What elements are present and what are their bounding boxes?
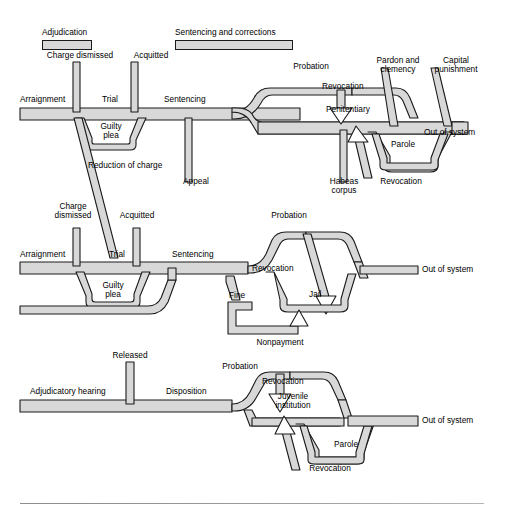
label-juv-disposition: Disposition <box>166 387 207 396</box>
juv-probation-right-leg <box>338 400 352 418</box>
felony-pardon-clemency-pipe <box>381 68 398 126</box>
label-misd-acquitted: Acquitted <box>120 211 155 220</box>
misd-charge-dismissed-pipe <box>73 228 80 266</box>
label-felony-reduction-of-charge: Reduction of charge <box>88 161 162 170</box>
legend-bar-adjudication <box>42 40 92 50</box>
label-felony-trial: Trial <box>102 95 118 104</box>
legend-label-adjudication: Adjudication <box>42 27 87 37</box>
label-felony-pardon-clemency-line2: clemency <box>380 65 415 74</box>
label-felony-charge-dismissed: Charge dismissed <box>47 51 113 60</box>
label-misd-jail: Jail <box>309 290 321 299</box>
label-misd-nonpayment: Nonpayment <box>256 338 303 347</box>
felony-capital-punishment-pipe <box>431 68 452 126</box>
misd-feeder-merge <box>168 268 176 280</box>
label-felony-appeal: Appeal <box>183 177 209 186</box>
juv-parole-revocation-pipe <box>282 432 300 470</box>
label-felony-sentencing: Sentencing <box>164 95 206 104</box>
label-felony-arraignment: Arraignment <box>20 95 65 104</box>
label-felony-parole-revocation: Revocation <box>380 177 422 186</box>
misd-lower-feeder-pipe <box>20 280 176 314</box>
felony-main-trunk <box>20 108 300 120</box>
label-misd-revocation: Revocation <box>252 264 294 273</box>
felony-appeal-pipe <box>185 118 192 182</box>
label-misd-sentencing: Sentencing <box>172 250 214 259</box>
label-felony-penitentiary: Penitentiary <box>326 105 370 114</box>
juv-released-pipe <box>126 362 134 404</box>
felony-habeas-corpus-pipe <box>340 130 347 182</box>
flowchart-canvas: .pipe{fill:#d8d8d8;stroke:#1a1a1a;stroke… <box>0 0 509 521</box>
label-juv-revocation: Revocation <box>262 377 304 386</box>
juv-institution-main <box>252 418 344 426</box>
label-felony-acquitted: Acquitted <box>134 51 169 60</box>
label-misd-guilty-plea-line2: plea <box>105 290 121 299</box>
label-juv-adjudicatory-hearing: Adjudicatory hearing <box>30 387 106 396</box>
felony-acquitted-pipe <box>131 62 138 112</box>
felony-charge-dismissed-pipe <box>73 62 80 112</box>
label-misd-out-of-system: Out of system <box>422 265 473 274</box>
bottom-divider <box>20 503 484 504</box>
label-juv-parole-revocation: Revocation <box>309 464 351 473</box>
label-misd-charge-dismissed-line2: dismissed <box>55 211 92 220</box>
label-juv-institution-line2: institution <box>275 401 310 410</box>
legend-bar-sentencing-corrections <box>175 40 293 50</box>
label-misd-fine: Fine <box>229 291 245 300</box>
pipe-network: .pipe{fill:#d8d8d8;stroke:#1a1a1a;stroke… <box>0 0 509 521</box>
label-juv-out-of-system: Out of system <box>422 416 473 425</box>
label-felony-parole: Parole <box>391 140 415 149</box>
misd-acquitted-pipe <box>133 228 140 266</box>
label-misd-trial: Trial <box>109 250 125 259</box>
label-felony-guilty-plea-line2: plea <box>103 131 119 140</box>
label-juv-parole: Parole <box>334 440 358 449</box>
label-felony-revocation: Revocation <box>322 82 364 91</box>
felony-parole-revocation-pipe <box>355 140 372 178</box>
label-felony-out-of-system: Out of system <box>424 128 475 137</box>
label-misd-probation: Probation <box>271 211 307 220</box>
label-misd-arraignment: Arraignment <box>20 250 65 259</box>
label-juv-probation: Probation <box>222 362 258 371</box>
misd-out-of-system-pipe <box>360 266 418 274</box>
juv-out-of-system-pipe <box>348 416 418 426</box>
label-felony-habeas-corpus-line2: corpus <box>332 186 357 195</box>
label-felony-capital-punishment-line2: punishment <box>435 65 478 74</box>
legend-label-sentencing-corrections: Sentencing and corrections <box>175 27 276 37</box>
label-juv-released: Released <box>112 351 147 360</box>
label-felony-probation: Probation <box>293 62 329 71</box>
